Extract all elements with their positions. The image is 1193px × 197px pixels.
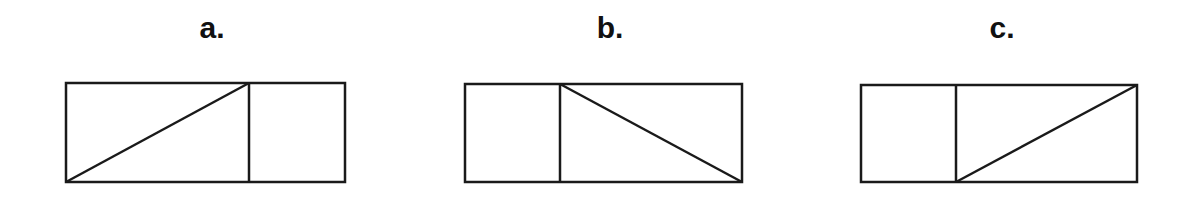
diagonal-line	[956, 85, 1137, 182]
diagonal-line	[66, 83, 249, 182]
panel-c	[861, 85, 1137, 182]
outer-rectangle	[465, 84, 742, 182]
panel-b	[465, 84, 742, 182]
outer-rectangle	[66, 83, 345, 182]
diagonal-line	[560, 84, 742, 182]
diagram-canvas	[0, 0, 1193, 197]
panel-a	[66, 83, 345, 182]
outer-rectangle	[861, 85, 1137, 182]
